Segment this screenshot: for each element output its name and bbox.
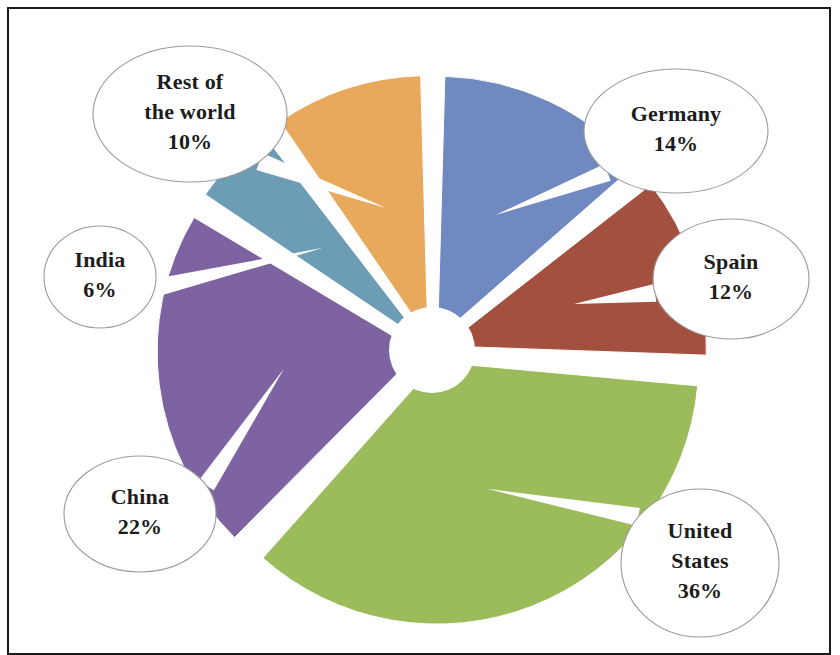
callout-label-united-states-line-1: United (668, 518, 733, 543)
callout-label-spain-line-1: Spain (704, 249, 759, 274)
callout-spain[interactable]: Spain12% (653, 219, 809, 339)
callout-label-united-states-line-3: 36% (678, 578, 723, 603)
callout-label-india-line-2: 6% (83, 277, 116, 302)
callout-label-rest-of-the-world-line-1: Rest of (157, 69, 224, 94)
callout-label-germany-line-2: 14% (654, 131, 699, 156)
callout-label-china-line-2: 22% (118, 514, 163, 539)
callout-label-rest-of-the-world-line-2: the world (144, 99, 236, 124)
callout-label-germany-line-1: Germany (631, 101, 722, 126)
callout-label-rest-of-the-world-line-3: 10% (168, 129, 213, 154)
callout-united-states[interactable]: UnitedStates36% (621, 489, 779, 637)
callout-china[interactable]: China22% (64, 456, 216, 572)
callout-label-united-states-line-2: States (671, 548, 729, 573)
callout-india[interactable]: India6% (44, 226, 156, 328)
callout-label-china-line-1: China (111, 484, 169, 509)
pie-center-hole (389, 307, 475, 393)
callout-label-spain-line-2: 12% (709, 279, 754, 304)
callout-label-india-line-1: India (74, 247, 125, 272)
callout-germany[interactable]: Germany14% (584, 69, 768, 193)
callout-rest-of-the-world[interactable]: Rest ofthe world10% (93, 46, 287, 182)
